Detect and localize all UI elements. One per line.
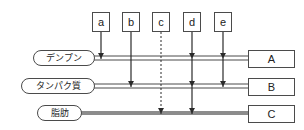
product-box-c[interactable]: C (248, 105, 295, 123)
digestion-flow-diagram: abcde デンプンタンパク質脂肪 ABC (0, 0, 304, 130)
nutrient-label-protein: タンパク質 (21, 78, 95, 94)
agent-box-b[interactable]: b (122, 12, 140, 32)
nutrient-label-starch: デンプン (33, 50, 95, 66)
nutrient-label-fat: 脂肪 (37, 105, 82, 121)
product-box-b[interactable]: B (248, 78, 295, 96)
agent-box-e[interactable]: e (214, 12, 232, 32)
agent-box-d[interactable]: d (183, 12, 201, 32)
product-box-a[interactable]: A (248, 50, 295, 68)
agent-box-a[interactable]: a (92, 12, 110, 32)
agent-arrow-group (98, 32, 226, 114)
agent-box-c[interactable]: c (152, 12, 170, 32)
